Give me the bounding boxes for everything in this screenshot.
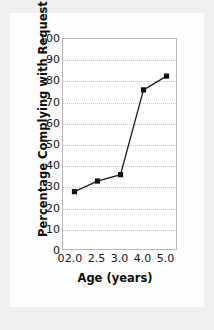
- figure-card: Percentage Complying with Request 010203…: [10, 13, 204, 307]
- data-point-marker: [164, 74, 169, 79]
- y-axis-tick-labels: 0102030405060708090100: [24, 38, 60, 250]
- x-tick-label: 0: [58, 253, 65, 264]
- y-tick-label: 40: [30, 160, 60, 171]
- y-tick-label: 60: [30, 117, 60, 128]
- data-point-marker: [95, 178, 100, 183]
- x-tick-label: 3.0: [111, 253, 129, 264]
- y-tick-label: 80: [30, 75, 60, 86]
- y-tick-label: 10: [30, 223, 60, 234]
- x-tick-label: 2.0: [65, 253, 83, 264]
- y-tick-label: 50: [30, 139, 60, 150]
- x-axis-tick-labels: 02.02.53.04.05.0: [50, 253, 190, 269]
- y-tick-label: 20: [30, 202, 60, 213]
- x-tick-label: 5.0: [157, 253, 175, 264]
- y-tick-label: 100: [30, 33, 60, 44]
- data-point-marker: [141, 87, 146, 92]
- x-tick-label: 4.0: [134, 253, 152, 264]
- data-point-marker: [118, 172, 123, 177]
- series-markers: [72, 74, 169, 195]
- x-tick-label: 2.5: [88, 253, 106, 264]
- x-axis-title: Age (years): [40, 271, 190, 285]
- plot-area: [62, 38, 177, 250]
- y-tick-label: 30: [30, 181, 60, 192]
- y-tick-label: 90: [30, 54, 60, 65]
- y-tick-label: 70: [30, 96, 60, 107]
- data-series-layer: [63, 39, 178, 251]
- data-point-marker: [72, 189, 77, 194]
